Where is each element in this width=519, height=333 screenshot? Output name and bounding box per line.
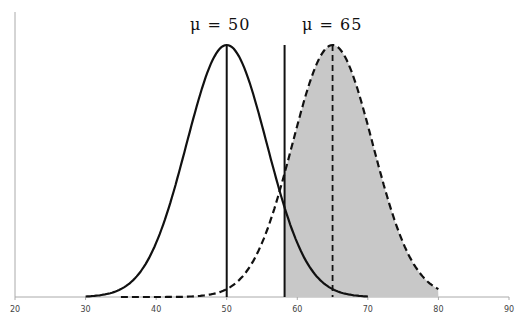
x-tick-label: 50 [222, 305, 232, 314]
x-ticks: 2030405060708090 [10, 297, 514, 314]
power-analysis-chart: 2030405060708090 μ = 50 μ = 65 [0, 0, 519, 333]
shaded-power-region [285, 45, 439, 297]
annotation-mu-50: μ = 50 [190, 15, 250, 34]
axes: 2030405060708090 [10, 12, 514, 314]
annotation-mu-65: μ = 65 [302, 15, 362, 34]
x-tick-label: 70 [363, 305, 373, 314]
x-tick-label: 40 [151, 305, 161, 314]
x-tick-label: 30 [80, 305, 90, 314]
x-tick-label: 20 [10, 305, 20, 314]
x-tick-label: 60 [292, 305, 302, 314]
x-tick-label: 80 [433, 305, 443, 314]
x-tick-label: 90 [504, 305, 514, 314]
